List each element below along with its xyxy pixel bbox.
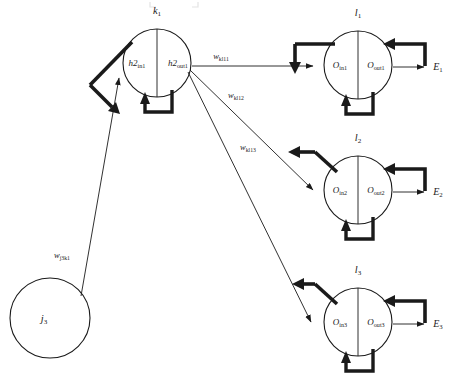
edge-w-kl13-label: wkl13 [240,142,256,153]
network-diagram: j3 wj3k1 k1 h2in1 h2out1 [0,0,454,383]
l3-node[interactable]: l3 Oin3 Oout3 E3 [292,264,443,371]
edge-w-kl13[interactable]: wkl13 [188,72,311,322]
l2-node[interactable]: l2 Oin2 Oout2 E2 [288,132,443,239]
l3-error-label: E3 [432,318,443,330]
l3-node-backprop-arrow [292,278,337,304]
edge-w-j3k1-label: wj3k1 [54,250,70,261]
k1-node[interactable]: k1 h2in1 h2out1 [90,5,191,114]
l2-node-top-label: l2 [355,132,362,145]
l2-error-label: E2 [432,186,443,198]
l1-error-label: E1 [432,61,443,73]
edge-w-kl12[interactable]: wkl12 [190,70,313,190]
edge-w-kl12-line [190,70,313,190]
edge-w-kl11-label: wkl11 [213,51,229,62]
j3-node-circle [10,278,90,358]
l1-node-error-output[interactable]: E1 [393,61,443,73]
l2-node-error-output[interactable]: E2 [393,186,443,198]
l3-node-top-label: l3 [355,264,362,277]
edge-w-kl12-label: wkl12 [228,90,244,101]
j3-node[interactable]: j3 [10,278,90,358]
l2-node-backprop-arrow [288,146,337,172]
l1-node-top-label: l1 [355,7,362,20]
edge-w-kl13-line [188,72,311,322]
l1-node[interactable]: l1 Oin1 Oout1 E1 [289,7,443,114]
l3-node-error-output[interactable]: E3 [393,318,443,330]
k1-node-top-label: k1 [153,5,162,18]
